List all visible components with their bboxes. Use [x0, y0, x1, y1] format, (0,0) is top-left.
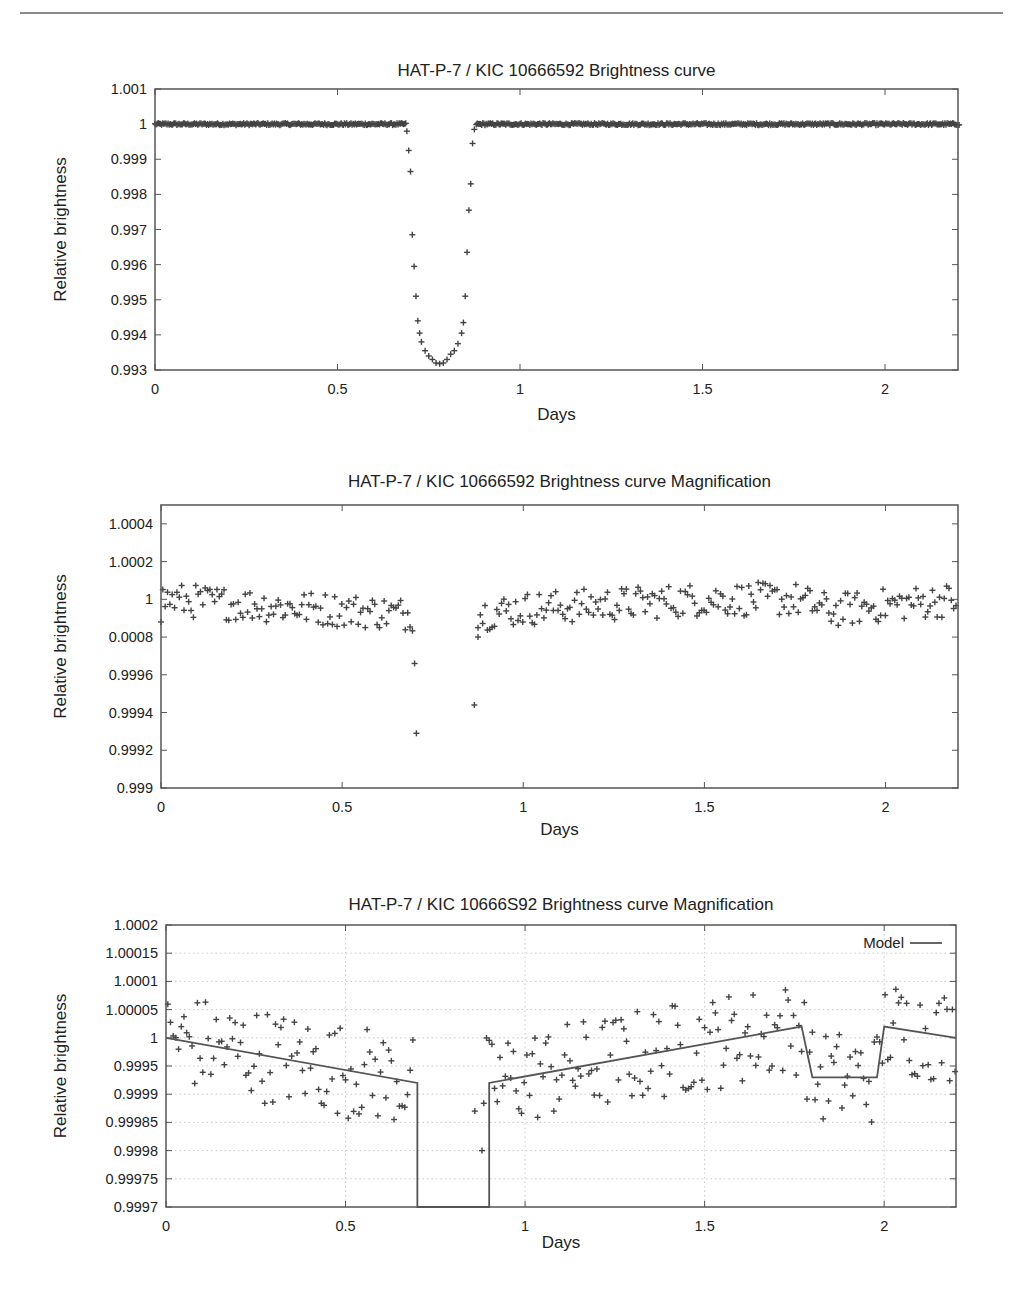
data-point — [791, 1012, 797, 1018]
data-point — [696, 1016, 702, 1022]
data-point — [699, 1077, 705, 1083]
data-point — [562, 1052, 568, 1058]
y-tick-label: 0.9995 — [114, 1058, 158, 1074]
data-point — [543, 1040, 549, 1046]
data-point — [920, 1063, 926, 1069]
data-point — [189, 1043, 195, 1049]
data-point — [782, 987, 788, 993]
data-point — [305, 1026, 311, 1032]
data-point — [607, 1052, 613, 1058]
data-point — [532, 1035, 538, 1041]
data-point — [494, 1099, 500, 1105]
data-point — [567, 1058, 573, 1064]
data-point — [545, 1034, 551, 1040]
y-tick-label: 0.9999 — [114, 1086, 158, 1102]
data-point — [621, 1026, 627, 1032]
data-point — [324, 1089, 330, 1095]
data-point — [524, 1052, 530, 1058]
data-point — [583, 1034, 589, 1040]
data-point — [388, 1058, 394, 1064]
data-point — [718, 1085, 724, 1091]
data-point — [194, 1000, 200, 1006]
data-point — [726, 994, 732, 1000]
data-point — [254, 1012, 260, 1018]
x-tick-label: 2 — [880, 1218, 888, 1234]
data-point — [564, 1021, 570, 1027]
data-point — [551, 1108, 557, 1114]
data-point — [785, 997, 791, 1003]
data-point — [882, 992, 888, 998]
data-point — [248, 1088, 254, 1094]
data-point — [624, 1038, 630, 1044]
chart-title: HAT-P-7 / KIC 10666S92 Brightness curve … — [349, 895, 774, 914]
data-point — [375, 1113, 381, 1119]
data-point — [497, 1054, 503, 1060]
data-point — [178, 1024, 184, 1030]
data-point — [650, 1012, 656, 1018]
data-point — [316, 1086, 322, 1092]
y-tick-label: 1.0001 — [114, 973, 158, 989]
data-point — [944, 1006, 950, 1012]
data-point — [361, 1062, 367, 1068]
data-point — [780, 1067, 786, 1073]
data-point — [817, 1064, 823, 1070]
data-point — [289, 1053, 295, 1059]
data-point — [278, 1024, 284, 1030]
data-point — [334, 1110, 340, 1116]
data-point — [329, 1076, 335, 1082]
data-point — [554, 1077, 560, 1083]
y-tick-label: 1.00005 — [106, 1002, 158, 1018]
data-point — [597, 1092, 603, 1098]
data-point — [933, 1010, 939, 1016]
data-point — [615, 1077, 621, 1083]
data-point — [407, 1067, 413, 1073]
data-point — [578, 1073, 584, 1079]
data-point — [345, 1115, 351, 1121]
y-tick-label: 1 — [150, 1030, 158, 1046]
data-point — [712, 1010, 718, 1016]
data-point — [337, 1025, 343, 1031]
data-point — [702, 1025, 708, 1031]
data-point — [640, 1092, 646, 1098]
y-tick-label: 0.99985 — [106, 1114, 158, 1130]
data-point — [764, 1012, 770, 1018]
data-point — [364, 1027, 370, 1033]
data-point — [537, 1061, 543, 1067]
model-line — [166, 1027, 956, 1207]
data-point — [801, 1000, 807, 1006]
data-point — [404, 1092, 410, 1098]
data-point — [479, 1148, 485, 1154]
y-axis-label: Relative brightness — [51, 994, 70, 1139]
data-point — [823, 1034, 829, 1040]
data-point — [535, 1114, 541, 1120]
data-point — [855, 1063, 861, 1069]
data-point — [594, 1066, 600, 1072]
data-point — [262, 1100, 268, 1106]
data-point — [602, 1018, 608, 1024]
data-point — [850, 1093, 856, 1099]
data-point — [605, 1099, 611, 1105]
data-point — [481, 1100, 487, 1106]
data-point — [540, 1074, 546, 1080]
data-point — [675, 1022, 681, 1028]
data-point — [936, 1000, 942, 1006]
data-point — [629, 1093, 635, 1099]
data-point — [356, 1111, 362, 1117]
data-point — [197, 1055, 203, 1061]
data-point — [756, 1054, 762, 1060]
data-point — [359, 1104, 365, 1110]
data-point — [777, 1013, 783, 1019]
data-point — [645, 1085, 651, 1091]
data-point — [353, 1081, 359, 1087]
data-point — [745, 1024, 751, 1030]
data-point — [232, 1020, 238, 1026]
data-point — [893, 986, 899, 992]
data-point — [720, 1062, 726, 1068]
data-point — [227, 1015, 233, 1021]
legend-label-model: Model — [863, 934, 904, 951]
y-tick-label: 1.0002 — [114, 917, 158, 933]
data-point — [383, 1095, 389, 1101]
y-tick-label: 1.00015 — [106, 945, 158, 961]
data-point — [844, 1073, 850, 1079]
data-point — [251, 1063, 257, 1069]
